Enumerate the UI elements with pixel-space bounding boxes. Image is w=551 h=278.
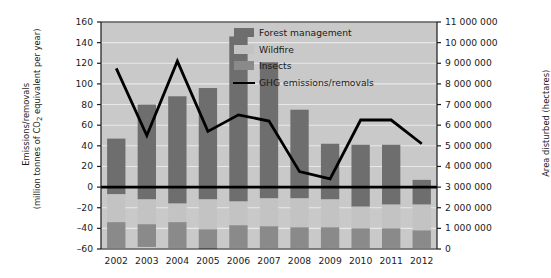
- legend-swatch-forest-management: [234, 28, 254, 37]
- y-axis-left-tick: 80: [59, 100, 93, 109]
- y-axis-right-tick: 6 000 000: [445, 120, 492, 129]
- legend-label-wildfire: Wildfire: [259, 44, 294, 55]
- y-axis-right-tick: 10 000 000: [445, 38, 498, 47]
- y-axis-right-tick: 3 000 000: [445, 182, 492, 191]
- legend-swatch-insects: [234, 61, 254, 70]
- y-axis-left-tick: 140: [59, 38, 93, 47]
- y-axis-right-tick: 2 000 000: [445, 203, 492, 212]
- y-axis-left-tick: –40: [59, 223, 93, 232]
- y-axis-left-tick: 120: [59, 58, 93, 67]
- legend-swatch-wildfire: [234, 45, 254, 54]
- legend-label-forest-management: Forest management: [259, 27, 352, 38]
- y-axis-left-tick: –20: [59, 203, 93, 212]
- y-axis-right-tick: 9 000 000: [445, 58, 492, 67]
- y-axis-left-tick: 20: [59, 161, 93, 170]
- y-axis-left-tick: 60: [59, 120, 93, 129]
- y-axis-left-tick: –60: [59, 244, 93, 253]
- y-axis-left-tick: 100: [59, 79, 93, 88]
- legend-label-insects: Insects: [259, 60, 291, 71]
- x-axis-tick-2012: 2012: [402, 255, 442, 266]
- y-axis-left-tick: 0: [59, 182, 93, 191]
- y-axis-right-tick: 1 000 000: [445, 223, 492, 232]
- y-axis-right-tick: 7 000 000: [445, 100, 492, 109]
- y-axis-right-tick: 0: [445, 244, 451, 253]
- y-axis-right-tick: 5 000 000: [445, 141, 492, 150]
- legend-label-ghg-emissions-removals: GHG emissions/removals: [259, 77, 374, 88]
- y-axis-left-tick: 40: [59, 141, 93, 150]
- y-axis-left-tick: 160: [59, 17, 93, 26]
- legend-line-ghg-emissions-removals: [233, 82, 255, 85]
- y-axis-right-tick: 4 000 000: [445, 161, 492, 170]
- y-axis-right-tick: 11 000 000: [445, 17, 498, 26]
- y-axis-right-tick: 8 000 000: [445, 79, 492, 88]
